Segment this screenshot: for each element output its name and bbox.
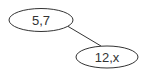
node-5-7: 5,7 xyxy=(9,9,73,32)
node-label: 12,x xyxy=(95,50,120,65)
node-label: 5,7 xyxy=(32,13,50,28)
node-12-x: 12,x xyxy=(76,46,138,68)
tree-diagram: 5,7 12,x xyxy=(0,0,147,74)
edge-5-7-to-12-x xyxy=(64,24,101,46)
